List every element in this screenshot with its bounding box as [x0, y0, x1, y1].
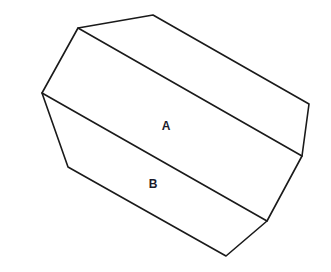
face-label-b: B — [149, 177, 158, 191]
face-label-a: A — [162, 119, 171, 133]
inner-edge-lower — [42, 93, 267, 221]
outline-polygon — [42, 15, 309, 256]
prism-diagram: A B — [0, 0, 331, 272]
inner-edge-upper — [78, 28, 302, 156]
